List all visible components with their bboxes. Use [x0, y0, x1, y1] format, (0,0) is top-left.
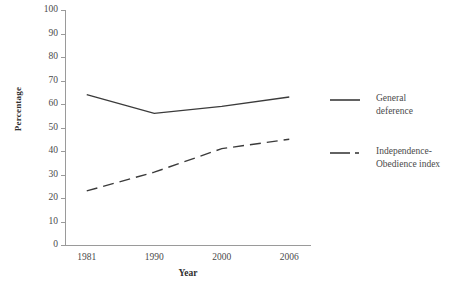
legend-entry-independence-obedience: Independence-Obedience index: [330, 145, 463, 170]
legend: Generaldeference Independence-Obedience …: [330, 92, 463, 198]
series-independence-obedience-line: [87, 139, 290, 191]
legend-entry-general-deference: Generaldeference: [330, 92, 463, 117]
legend-label-independence-obedience: Independence-Obedience index: [376, 145, 463, 170]
line-chart: Percentage 0102030405060708090100 198119…: [0, 0, 463, 293]
legend-key-dashed-line-icon: [330, 148, 368, 158]
series-general-deference-line: [87, 95, 290, 114]
x-axis-title: Year: [66, 268, 310, 278]
legend-label-general-deference: Generaldeference: [376, 92, 463, 117]
legend-key-solid-line-icon: [330, 95, 368, 105]
